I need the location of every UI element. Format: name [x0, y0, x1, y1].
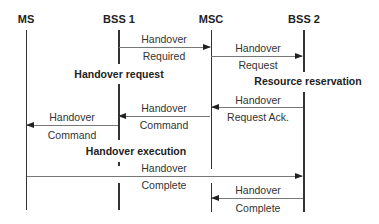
participant-bss2: BSS 2: [288, 13, 320, 25]
lifeline-bss1-seg3: [118, 162, 120, 166]
msg-label: Request: [238, 59, 277, 71]
arrowhead-left-icon: [26, 122, 34, 128]
arrow-handover-request: [211, 56, 302, 57]
msg-label: Command: [48, 129, 96, 141]
arrowhead-left-icon: [211, 104, 219, 110]
participant-msc: MSC: [199, 13, 223, 25]
lifeline-msc-seg1: [211, 30, 213, 169]
phase-handover-execution: Handover execution: [86, 145, 186, 157]
lifeline-bss2-seg1: [303, 30, 305, 72]
msg-label: Complete: [236, 202, 281, 214]
msg-label: Request Ack.: [227, 111, 289, 123]
msg-label: Handover: [49, 111, 95, 123]
lifeline-bss2-seg2: [303, 92, 305, 212]
arrow-handover-required: [119, 47, 210, 48]
phase-resource-reservation: Resource reservation: [254, 75, 361, 87]
arrow-handover-complete-bss2: [212, 198, 303, 199]
arrow-handover-request-ack: [212, 107, 303, 108]
arrowhead-left-icon: [118, 113, 126, 119]
msg-label: Handover: [141, 162, 187, 174]
phase-handover-request: Handover request: [74, 68, 163, 80]
participant-ms: MS: [18, 13, 35, 25]
msg-label: Handover: [141, 33, 187, 45]
msg-label: Handover: [235, 94, 281, 106]
arrowhead-right-icon: [295, 173, 303, 179]
arrow-handover-command-bss1: [27, 125, 118, 126]
lifeline-bss1-seg4: [118, 183, 120, 210]
arrow-handover-command-msc: [119, 116, 210, 117]
msg-label: Complete: [142, 179, 187, 191]
msg-label: Handover: [235, 42, 281, 54]
arrowhead-right-icon: [295, 53, 303, 59]
lifeline-bss1-seg2: [118, 84, 120, 140]
msg-label: Handover: [235, 184, 281, 196]
participant-bss1: BSS 1: [103, 13, 135, 25]
lifeline-ms: [26, 30, 28, 210]
arrowhead-left-icon: [211, 195, 219, 201]
arrow-handover-complete-ms: [27, 176, 302, 177]
msg-label: Required: [143, 50, 186, 62]
msg-label: Handover: [141, 102, 187, 114]
msg-label: Command: [140, 119, 188, 131]
arrowhead-right-icon: [203, 44, 211, 50]
